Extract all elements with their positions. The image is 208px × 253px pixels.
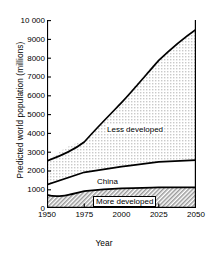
x-tick-label: 1950: [27, 211, 67, 219]
plot-area: [47, 20, 196, 208]
series-label-more-developed: More developed: [93, 196, 156, 207]
population-chart-figure: Predicted world population (millions) 10…: [0, 0, 208, 253]
x-axis-title: Year: [0, 238, 208, 248]
series-label-less-developed: Less developed: [106, 125, 164, 134]
x-tick-label: 2050: [176, 211, 208, 219]
x-tick-label: 1975: [64, 211, 104, 219]
x-tick-label: 2000: [102, 211, 142, 219]
x-tick-label: 2025: [139, 211, 179, 219]
series-label-china: China: [96, 177, 119, 186]
chart-svg: [47, 20, 196, 208]
